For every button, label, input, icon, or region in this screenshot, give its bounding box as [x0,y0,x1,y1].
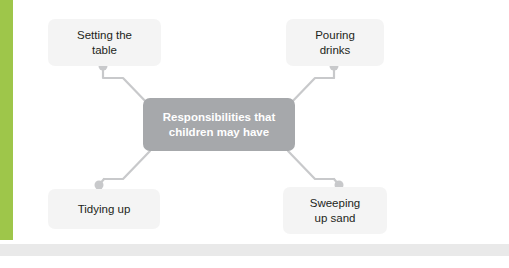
node-center-line2: children may have [157,125,281,140]
node-tidying-up-line1: Tidying up [72,202,137,217]
node-pouring-drinks[interactable]: Pouring drinks [286,19,384,66]
node-setting-the-table[interactable]: Setting the table [48,19,161,66]
diagram-canvas: Setting the table Pouring drinks Respons… [0,0,509,268]
node-tidying-up[interactable]: Tidying up [48,189,160,229]
node-pouring-drinks-line1: Pouring [309,28,361,43]
connector-bottom-right [288,151,334,179]
node-setting-the-table-line2: table [71,43,138,58]
connector-top-right [288,78,334,106]
node-setting-the-table-label: Setting the table [65,28,144,57]
node-sweeping-up-sand[interactable]: Sweeping up sand [283,187,387,234]
node-tidying-up-label: Tidying up [66,202,143,217]
node-setting-the-table-line1: Setting the [71,28,138,43]
node-sweeping-up-sand-line2: up sand [304,211,367,226]
node-center-line1: Responsibilities that [157,110,281,125]
node-center-responsibilities[interactable]: Responsibilities that children may have [143,98,295,151]
node-center-label: Responsibilities that children may have [151,110,287,139]
node-pouring-drinks-line2: drinks [309,43,361,58]
node-sweeping-up-sand-label: Sweeping up sand [298,196,373,225]
connector-bottom-left [104,151,150,179]
node-sweeping-up-sand-line1: Sweeping [304,196,367,211]
node-pouring-drinks-label: Pouring drinks [303,28,367,57]
